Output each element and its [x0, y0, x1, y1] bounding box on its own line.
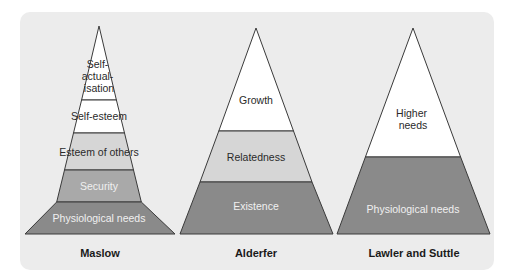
pyramid-maslow: Self- actual- isation Self-esteem Esteem…: [25, 26, 175, 259]
lawler-level-higher-needs: [365, 28, 460, 157]
lawler-level-physiological: [337, 157, 490, 234]
lawler-label-2: Physiological needs: [367, 203, 460, 215]
maslow-label-1: Self- actual- isation: [82, 58, 116, 94]
alderfer-label-2: Relatedness: [227, 151, 285, 163]
lawler-label-1: Higher needs: [396, 107, 430, 131]
maslow-label-5: Physiological needs: [53, 212, 146, 224]
caption-lawler-suttle: Lawler and Suttle: [368, 247, 459, 259]
needs-pyramids-diagram: Self- actual- isation Self-esteem Esteem…: [0, 0, 508, 278]
caption-maslow: Maslow: [80, 247, 120, 259]
maslow-label-4: Security: [80, 180, 119, 192]
maslow-label-3: Esteem of others: [59, 146, 138, 158]
pyramid-alderfer: Growth Relatedness Existence Alderfer: [180, 28, 333, 259]
alderfer-level-growth: [219, 28, 294, 131]
caption-alderfer: Alderfer: [235, 247, 278, 259]
pyramid-lawler-suttle: Higher needs Physiological needs Lawler …: [337, 28, 490, 259]
alderfer-label-1: Growth: [239, 94, 273, 106]
alderfer-label-3: Existence: [233, 200, 279, 212]
maslow-label-2: Self-esteem: [71, 110, 127, 122]
